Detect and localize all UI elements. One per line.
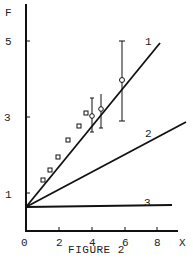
- series-line-2: [26, 122, 186, 207]
- chart-canvas: F 5 3 1 0 2 4 6 8 X 1 2 3: [0, 0, 193, 266]
- y-tick-label: 3: [4, 112, 11, 124]
- square-markers: [41, 111, 88, 182]
- line-label-1: 1: [145, 36, 152, 48]
- line-label-2: 2: [145, 128, 152, 140]
- y-tick-label: 5: [5, 36, 12, 48]
- series-line-1: [26, 43, 160, 207]
- figure-caption: FIGURE 2: [0, 244, 193, 256]
- circle-markers: [90, 78, 125, 119]
- y-axis-label: F: [5, 7, 12, 19]
- line-label-3: 3: [144, 197, 151, 209]
- y-tick-label: 1: [5, 189, 12, 201]
- error-bars: [90, 41, 125, 132]
